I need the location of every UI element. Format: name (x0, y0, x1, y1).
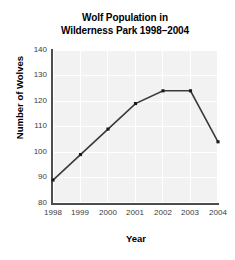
gridline-x-2000 (107, 50, 108, 203)
plot-area (53, 50, 218, 203)
chart-title-line-2: Wilderness Park 1998–2004 (30, 25, 220, 38)
gridline-x-2004 (217, 50, 218, 203)
y-tick-label-110: 110 (3, 122, 47, 130)
gridline-x-2001 (135, 50, 136, 203)
gridline-x-1998 (53, 50, 54, 203)
y-tick-label-80: 80 (3, 199, 47, 207)
y-tick-label-120: 120 (3, 97, 47, 105)
gridline-x-2003 (190, 50, 191, 203)
y-tick-label-90: 90 (3, 173, 47, 181)
gridline-x-2002 (162, 50, 163, 203)
y-tick-label-130: 130 (3, 71, 47, 79)
x-tick-label-2004: 2004 (201, 208, 235, 217)
gridline-x-1999 (80, 50, 81, 203)
y-tick-label-140: 140 (3, 46, 47, 54)
chart-figure: Wolf Population in Wilderness Park 1998–… (0, 0, 235, 260)
y-axis-tick-labels: 140 130 120 110 100 90 80 (0, 0, 47, 260)
x-axis-title: Year (53, 233, 219, 244)
x-axis-line (51, 203, 219, 205)
chart-title-line-1: Wolf Population in (30, 12, 220, 25)
y-axis-line (51, 49, 53, 204)
y-tick-label-100: 100 (3, 148, 47, 156)
chart-title: Wolf Population in Wilderness Park 1998–… (30, 12, 220, 37)
